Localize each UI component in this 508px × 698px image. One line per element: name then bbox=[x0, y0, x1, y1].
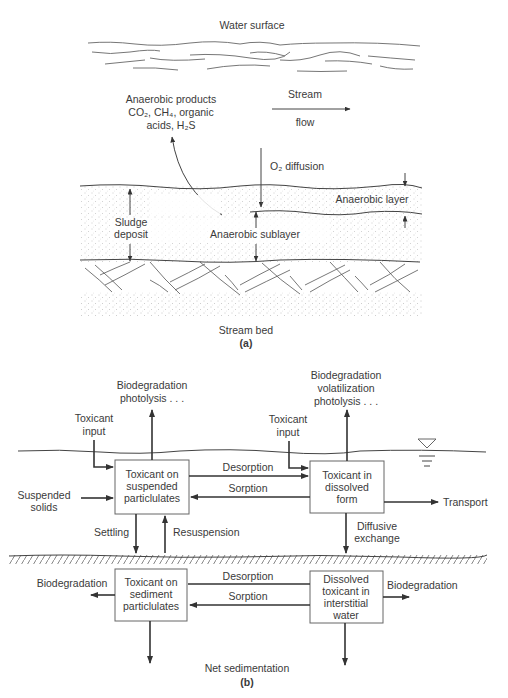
svg-text:toxicant in: toxicant in bbox=[322, 585, 369, 597]
svg-text:particlulates: particlulates bbox=[123, 600, 179, 612]
stream-flow-indicator: Stream flow bbox=[272, 88, 350, 128]
box-sediment-particulates: Toxicant on sediment particlulates bbox=[115, 569, 187, 621]
svg-text:Dissolved: Dissolved bbox=[323, 573, 369, 585]
toxicant-input-left-arrow-icon bbox=[94, 440, 113, 467]
svg-text:input: input bbox=[277, 426, 300, 438]
anaerobic-products-label: Anaerobic products CO₂, CH₄, organic aci… bbox=[126, 93, 216, 131]
svg-text:photolysis . . .: photolysis . . . bbox=[314, 395, 378, 407]
svg-text:input: input bbox=[83, 425, 106, 437]
svg-text:form: form bbox=[337, 493, 358, 505]
water-surface-line bbox=[18, 450, 486, 454]
panel-b-caption: (b) bbox=[240, 676, 253, 688]
svg-text:Biodegradation: Biodegradation bbox=[117, 379, 188, 391]
sludge-deposit-label: Sludge deposit bbox=[114, 216, 148, 240]
svg-text:Toxicant: Toxicant bbox=[269, 413, 308, 425]
svg-text:photolysis . . .: photolysis . . . bbox=[120, 392, 184, 404]
stream-bed-texture bbox=[85, 262, 418, 295]
settling-label: Settling bbox=[94, 526, 129, 538]
svg-text:volatilization: volatilization bbox=[317, 382, 374, 394]
o2-diffusion-label: O₂ diffusion bbox=[270, 160, 324, 172]
water-surface-label: Water surface bbox=[220, 19, 285, 31]
desorption-upper-label: Desorption bbox=[223, 461, 274, 473]
svg-text:deposit: deposit bbox=[114, 228, 148, 240]
top-right-process-label: Biodegradation volatilization photolysis… bbox=[311, 369, 382, 407]
biodegradation-right-label: Biodegradation bbox=[387, 579, 458, 591]
toxicant-input-right-label: Toxicant input bbox=[269, 413, 308, 438]
svg-text:sediment: sediment bbox=[130, 588, 173, 600]
svg-text:suspended: suspended bbox=[126, 480, 178, 492]
svg-text:particlulates: particlulates bbox=[124, 492, 180, 504]
toxicant-input-right-arrow-icon bbox=[289, 441, 308, 468]
net-sedimentation-label: Net sedimentation bbox=[205, 662, 290, 674]
anaerobic-sublayer-label: Anaerobic sublayer bbox=[210, 228, 300, 240]
box-suspended-particulates: Toxicant on suspended particlulates bbox=[115, 460, 189, 514]
panel-a-caption: (a) bbox=[240, 337, 253, 349]
svg-text:Toxicant in: Toxicant in bbox=[322, 469, 372, 481]
top-left-process-label: Biodegradation photolysis . . . bbox=[117, 379, 188, 404]
svg-text:Stream: Stream bbox=[288, 88, 322, 100]
svg-text:Anaerobic products: Anaerobic products bbox=[126, 93, 216, 105]
svg-text:Toxicant on: Toxicant on bbox=[124, 576, 177, 588]
svg-text:interstitial: interstitial bbox=[324, 597, 368, 609]
panel-b: Biodegradation photolysis . . . Biodegra… bbox=[9, 369, 488, 688]
water-level-icon bbox=[418, 439, 436, 466]
anaerobic-layer-label: Anaerobic layer bbox=[336, 193, 409, 205]
svg-text:Diffusive: Diffusive bbox=[357, 520, 397, 532]
desorption-lower-label: Desorption bbox=[223, 570, 274, 582]
resuspension-label: Resuspension bbox=[173, 526, 240, 538]
transport-label: Transport bbox=[443, 496, 488, 508]
svg-text:Toxicant on: Toxicant on bbox=[125, 468, 178, 480]
panel-a: Water surface Anaerobic products CO₂, CH… bbox=[80, 19, 422, 349]
stream-toxicant-diagram: Water surface Anaerobic products CO₂, CH… bbox=[0, 0, 508, 698]
svg-text:acids, H₂S: acids, H₂S bbox=[146, 119, 195, 131]
stream-bed-label: Stream bed bbox=[219, 324, 273, 336]
svg-text:flow: flow bbox=[296, 116, 315, 128]
suspended-solids-label: Suspended solids bbox=[17, 489, 70, 513]
svg-text:Suspended: Suspended bbox=[17, 489, 70, 501]
svg-text:Toxicant: Toxicant bbox=[75, 412, 114, 424]
toxicant-input-left-label: Toxicant input bbox=[75, 412, 114, 437]
sorption-upper-label: Sorption bbox=[228, 482, 267, 494]
stream-bed-gravel bbox=[80, 292, 422, 316]
box-interstitial-water: Dissolved toxicant in interstitial water bbox=[310, 571, 383, 623]
sorption-lower-label: Sorption bbox=[228, 590, 267, 602]
diffusive-exchange-label: Diffusive exchange bbox=[354, 520, 400, 544]
svg-text:dissolved: dissolved bbox=[325, 481, 369, 493]
biodegradation-left-label: Biodegradation bbox=[37, 577, 108, 589]
box-dissolved-form: Toxicant in dissolved form bbox=[310, 461, 384, 513]
svg-text:Biodegradation: Biodegradation bbox=[311, 369, 382, 381]
svg-text:CO₂, CH₄, organic: CO₂, CH₄, organic bbox=[128, 106, 213, 118]
svg-text:solids: solids bbox=[31, 501, 58, 513]
svg-text:exchange: exchange bbox=[354, 532, 400, 544]
water-waves bbox=[88, 42, 420, 72]
svg-text:Sludge: Sludge bbox=[115, 216, 148, 228]
svg-text:water: water bbox=[332, 609, 359, 621]
